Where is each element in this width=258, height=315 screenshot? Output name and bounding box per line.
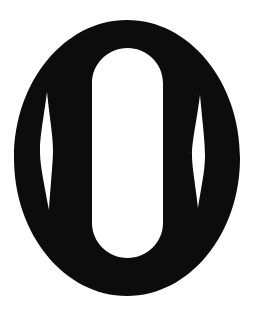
image-canvas: Tsuba Silhouette Solid black silhouette … (0, 0, 258, 315)
tsuba-silhouette-figure (0, 0, 258, 315)
